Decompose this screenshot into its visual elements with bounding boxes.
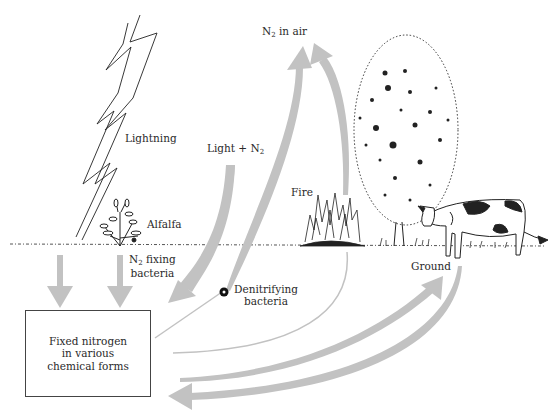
grass — [380, 238, 507, 248]
label-n2-in-air: N2 in air — [262, 25, 307, 39]
label-light-n2: Light + N2 — [207, 142, 264, 156]
arrow-fixed-to-ground — [180, 276, 443, 382]
bacteria-dot-icon — [220, 288, 229, 297]
arrow-light-to-fixed — [168, 165, 235, 303]
label-n2-fixing-bacteria: N2 fixingbacteria — [129, 253, 176, 279]
label-fire: Fire — [291, 186, 313, 198]
label-alfalfa: Alfalfa — [147, 218, 182, 230]
label-lightning: Lightning — [125, 132, 177, 144]
fixed-nitrogen-box: Fixed nitrogen in various chemical forms — [25, 310, 151, 397]
label-ground: Ground — [411, 260, 451, 272]
line-fixed-to-denitrifying — [155, 292, 222, 338]
label-denitrifying-bacteria: Denitrifyingbacteria — [234, 283, 298, 307]
fire-icon — [300, 193, 365, 246]
ground-line — [10, 244, 545, 246]
arrow-ground-to-fixed — [168, 266, 462, 410]
arrow-denitrifying-to-air — [226, 46, 312, 291]
fixed-nitrogen-label: Fixed nitrogen in various chemical forms — [47, 335, 129, 373]
alfalfa-plant-icon — [100, 199, 141, 246]
cow-icon — [418, 200, 548, 258]
nitrogen-cycle-diagram: N2 in air Lightning Light + N2 Alfalfa F… — [0, 0, 559, 417]
arrow-lightning-to-fixed — [47, 255, 73, 308]
arrow-fire-to-air — [310, 43, 349, 195]
